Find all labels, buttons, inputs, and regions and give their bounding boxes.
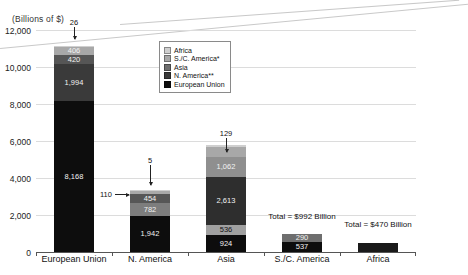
legend-item-asia[interactable]: Asia — [164, 64, 225, 71]
bar-segment-asia: 1,062 — [206, 157, 246, 177]
callout-arrow-110 — [115, 194, 129, 195]
bar-asia[interactable]: 1,062 2,613 536 924 — [206, 145, 246, 252]
bar-european-union[interactable]: 406 420 1,994 8,168 — [54, 46, 94, 252]
legend-item-label: N. America** — [174, 72, 214, 79]
bar-segment-european-union: 8,168 — [54, 101, 94, 252]
callout-label-110: 110 — [100, 190, 112, 199]
legend-item-sc-america[interactable]: S./C. America* — [164, 55, 225, 62]
bar-segment-european-union: 1,942 — [130, 216, 170, 252]
total-note-africa: Total = $470 Billion — [344, 220, 411, 229]
segment-value-label: 536 — [220, 226, 233, 234]
legend-item-label: S./C. America* — [174, 55, 220, 62]
y-tick-label-4000: 4,000 — [10, 174, 31, 184]
x-axis-label-european-union: European Union — [41, 254, 106, 264]
segment-value-label: 406 — [68, 47, 81, 55]
segment-value-label: 1,994 — [65, 79, 84, 87]
callout-label-129: 129 — [220, 129, 233, 138]
x-axis-label-asia: Asia — [217, 254, 235, 264]
x-tickmark-4 — [340, 252, 341, 256]
x-tickmark-5 — [415, 252, 416, 256]
legend-swatch-icon — [164, 64, 171, 71]
segment-value-label: 8,168 — [65, 173, 84, 181]
segment-value-label: 290 — [296, 234, 309, 242]
legend-swatch-icon — [164, 55, 171, 62]
callout-arrow-26 — [74, 27, 75, 39]
segment-value-label: 1,942 — [141, 230, 160, 238]
legend-item-european-union[interactable]: European Union — [164, 81, 225, 88]
bar-segment-european-union: 924 — [206, 235, 246, 252]
bar-segment-asia: 454 — [130, 194, 170, 203]
bar-segment-european-union — [358, 243, 398, 252]
bar-n-america[interactable]: 454 782 1,942 — [130, 190, 170, 252]
bar-segment-sc-america: 406 — [54, 47, 94, 55]
y-tick-label-10000: 10,000 — [5, 63, 31, 73]
y-tick-label-6000: 6,000 — [10, 137, 31, 147]
bar-segment-middle-light: 536 — [206, 225, 246, 235]
y-tick-label-0: 0 — [26, 248, 31, 258]
y-axis-title: (Billions of $) — [12, 14, 64, 24]
legend-item-n-america[interactable]: N. America** — [164, 72, 225, 79]
callout-label-26: 26 — [70, 18, 78, 27]
callout-arrow-5 — [150, 165, 151, 185]
x-axis-label-africa: Africa — [366, 254, 389, 264]
x-axis-line: 0 — [36, 252, 416, 253]
x-tickmark-0 — [36, 252, 37, 256]
total-note-sc-america: Total = $992 Billion — [268, 212, 335, 221]
legend-swatch-icon — [164, 47, 171, 54]
x-axis-label-sc-america: S./C. America — [274, 254, 329, 264]
segment-value-label: 537 — [296, 243, 309, 251]
callout-label-5: 5 — [148, 156, 152, 165]
y-tick-label-2000: 2,000 — [10, 211, 31, 221]
segment-value-label: 420 — [68, 56, 81, 64]
bar-segment-n-america: 782 — [130, 203, 170, 216]
legend-swatch-icon — [164, 81, 171, 88]
gridline-12000: 12,000 — [36, 30, 416, 31]
legend-item-label: Asia — [174, 64, 188, 71]
legend-item-label: European Union — [174, 81, 225, 88]
x-tickmark-2 — [188, 252, 189, 256]
segment-value-label: 1,062 — [217, 163, 236, 171]
x-axis-label-n-america: N. America — [128, 254, 172, 264]
bar-segment-european-union: 537 — [282, 242, 322, 252]
y-tick-label-8000: 8,000 — [10, 100, 31, 110]
bar-segment-n-america: 2,613 — [206, 177, 246, 225]
segment-value-label: 2,613 — [217, 197, 236, 205]
legend-item-africa[interactable]: Africa — [164, 47, 225, 54]
x-tickmark-3 — [264, 252, 265, 256]
segment-value-label: 924 — [220, 240, 233, 248]
segment-value-label: 454 — [144, 195, 157, 203]
legend: Africa S./C. America* Asia N. America** … — [159, 41, 231, 93]
bar-segment-upper: 290 — [282, 234, 322, 242]
bar-sc-america[interactable]: 290 537 — [282, 234, 322, 252]
bar-segment-asia: 420 — [54, 55, 94, 64]
callout-arrow-129 — [226, 138, 227, 152]
bar-segment-n-america: 1,994 — [54, 64, 94, 101]
legend-swatch-icon — [164, 72, 171, 79]
bar-africa[interactable] — [358, 243, 398, 252]
y-tick-label-12000: 12,000 — [5, 26, 31, 36]
legend-item-label: Africa — [174, 47, 192, 54]
segment-value-label: 782 — [144, 206, 157, 214]
x-tickmark-1 — [112, 252, 113, 256]
